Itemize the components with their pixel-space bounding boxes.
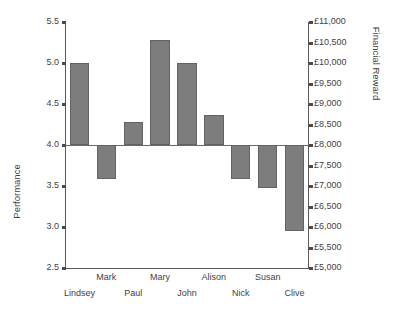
y-axis-right-title: Financial Reward — [371, 14, 382, 114]
y-axis-right-tick — [309, 83, 313, 86]
y-axis-right-tick — [309, 185, 313, 188]
bars-layer — [66, 22, 308, 268]
y-axis-right-tick-label: £9,000 — [314, 99, 342, 108]
y-axis-left-tick-label: 4.0 — [46, 140, 59, 149]
y-axis-right-tick-label: £5,500 — [314, 243, 342, 252]
bar-chart: 5.55.04.54.03.53.02.5 £11,000£10,500£10,… — [0, 0, 407, 324]
y-axis-left-tick-label: 3.5 — [46, 181, 59, 190]
bar — [285, 145, 304, 231]
x-axis-category-label: John — [177, 288, 197, 298]
y-axis-left-tick-label: 4.5 — [46, 99, 59, 108]
x-axis-category-label: Paul — [124, 288, 142, 298]
y-axis-right-tick-label: £7,500 — [314, 161, 342, 170]
y-axis-right-tick-label: £8,000 — [314, 140, 342, 149]
y-axis-right-tick — [309, 247, 313, 250]
y-axis-right-tick-label: £6,000 — [314, 222, 342, 231]
y-axis-left-tick-label: 3.0 — [46, 222, 59, 231]
x-axis-category-label: Nick — [232, 288, 250, 298]
y-axis-right-tick — [309, 144, 313, 147]
y-axis-right-tick-label: £6,500 — [314, 202, 342, 211]
y-axis-right-tick — [309, 124, 313, 127]
y-axis-right-tick — [309, 165, 313, 168]
bar — [124, 122, 143, 145]
y-axis-right-tick-label: £5,000 — [314, 263, 342, 272]
y-axis-left-tick-label: 5.5 — [46, 17, 59, 26]
y-axis-right-tick — [309, 62, 313, 65]
y-axis-right-tick — [309, 206, 313, 209]
bar — [150, 40, 169, 145]
bar — [177, 63, 196, 145]
bar — [231, 145, 250, 179]
bar — [70, 63, 89, 145]
y-axis-left-tick-label: 5.0 — [46, 58, 59, 67]
y-axis-right-tick-label: £10,000 — [314, 58, 347, 67]
y-axis-right-tick-label: £9,500 — [314, 79, 342, 88]
x-axis-line — [65, 268, 309, 269]
x-axis-category-label: Clive — [285, 288, 305, 298]
x-axis-category-label: Lindsey — [64, 288, 95, 298]
y-axis-left-title: Performance — [11, 152, 22, 232]
y-axis-right-tick-label: £10,500 — [314, 38, 347, 47]
bar — [97, 145, 116, 179]
y-axis-right-tick — [309, 21, 313, 24]
y-axis-right-tick — [309, 267, 313, 270]
y-axis-right-tick — [309, 103, 313, 106]
y-axis-right-tick — [309, 42, 313, 45]
y-axis-right-tick — [309, 226, 313, 229]
y-axis-right-tick-label: £11,000 — [314, 17, 346, 26]
x-axis-category-label: Susan — [255, 272, 281, 282]
y-axis-left-tick-label: 2.5 — [46, 263, 59, 272]
x-axis-category-label: Alison — [202, 272, 227, 282]
y-axis-right-tick-label: £8,500 — [314, 120, 342, 129]
x-axis-category-label: Mary — [150, 272, 170, 282]
bar — [258, 145, 277, 188]
x-axis-category-label: Mark — [96, 272, 116, 282]
bar — [204, 115, 223, 145]
y-axis-right-tick-label: £7,000 — [314, 181, 342, 190]
